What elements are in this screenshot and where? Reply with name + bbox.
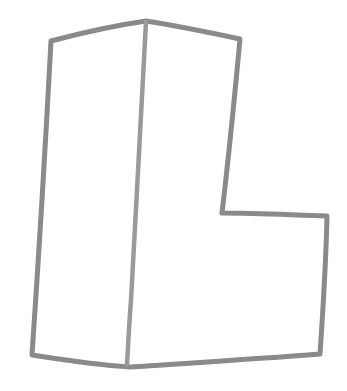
sketch-drawing	[0, 0, 347, 391]
sketch-canvas	[0, 0, 347, 391]
